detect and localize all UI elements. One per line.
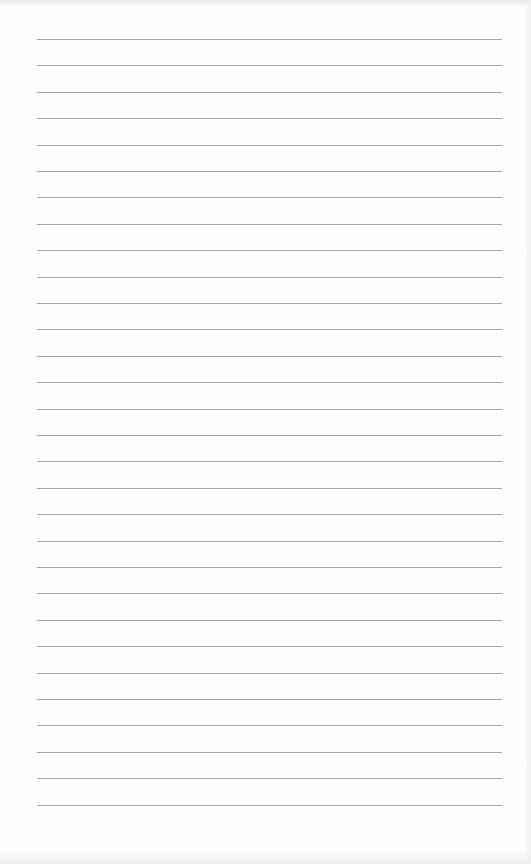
- ruled-line: [37, 461, 502, 462]
- ruled-line: [37, 303, 502, 304]
- ruled-line: [37, 646, 502, 647]
- ruled-line: [37, 197, 502, 198]
- ruled-line: [37, 699, 502, 700]
- scan-edge-bottom: [0, 850, 531, 864]
- ruled-line: [37, 725, 502, 726]
- ruled-line: [37, 224, 502, 225]
- ruled-line: [37, 567, 502, 568]
- ruled-line: [37, 514, 502, 515]
- ruled-line: [37, 65, 502, 66]
- ruled-line: [37, 145, 502, 146]
- ruled-line: [37, 541, 502, 542]
- ruled-line: [37, 409, 502, 410]
- ruled-line: [37, 435, 502, 436]
- ruled-line: [37, 171, 502, 172]
- ruled-line: [37, 620, 502, 621]
- ruled-line: [37, 39, 502, 40]
- ruled-line: [37, 488, 502, 489]
- ruled-line: [37, 329, 502, 330]
- ruled-line: [37, 382, 502, 383]
- ruled-line: [37, 673, 502, 674]
- ruled-line: [37, 752, 502, 753]
- ruled-line: [37, 356, 502, 357]
- ruled-line: [37, 593, 502, 594]
- ruled-line: [37, 250, 502, 251]
- ruled-line: [37, 277, 502, 278]
- ruled-paper-page: [0, 0, 531, 864]
- ruled-line: [37, 778, 502, 779]
- scan-edge-top: [0, 0, 531, 8]
- scan-edge-right: [525, 0, 531, 864]
- ruled-line: [37, 92, 502, 93]
- ruled-line: [37, 805, 502, 806]
- ruled-line: [37, 118, 502, 119]
